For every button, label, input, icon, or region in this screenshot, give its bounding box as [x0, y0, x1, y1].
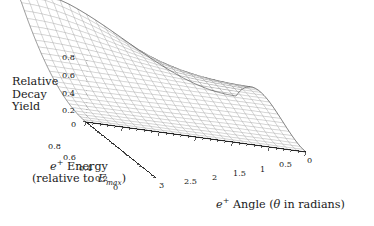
angle-axis-tick-label: 0.5	[279, 159, 292, 169]
angle-axis-tick	[305, 152, 306, 156]
energy-axis-tick-label: 0	[113, 182, 118, 192]
energy-axis-relative-prefix: (relative to	[32, 172, 98, 185]
angle-axis-tick	[85, 122, 86, 126]
energy-axis-tick-label: 0.8	[48, 141, 61, 151]
z-axis-title-line-1: Relative	[12, 76, 58, 89]
angle-axis-tick	[158, 132, 159, 136]
angle-axis-tick-label: 1.5	[233, 168, 246, 178]
angle-axis-tick	[232, 142, 233, 146]
energy-axis-tick-label: 0.6	[63, 152, 76, 162]
angle-axis-tick-label: 0	[307, 155, 312, 165]
z-axis-title-line-3: Yield	[12, 101, 58, 114]
angle-axis-title-rest: in radians)	[280, 198, 345, 211]
energy-axis-title-line-2: (relative to Emax)	[10, 173, 148, 188]
z-axis-tick-label: 0	[71, 119, 76, 129]
angle-axis-tick	[268, 147, 269, 151]
energy-axis-tick-label: 0.2	[95, 173, 108, 183]
angle-axis-tick-label: 1	[260, 164, 265, 174]
z-axis-tick-label: 0.2	[62, 105, 75, 115]
angle-axis-tick-label: 2.5	[184, 176, 197, 186]
angle-axis-particle-symbol: e	[216, 198, 223, 211]
energy-axis-title-suffix: )	[122, 172, 126, 185]
angle-axis-tick	[195, 137, 196, 141]
angle-axis-title: e+ Angle (θ in radians)	[216, 196, 345, 211]
z-axis-title: Relative Decay Yield	[12, 76, 58, 114]
angle-axis-title-mid: Angle (	[229, 198, 273, 211]
angle-axis-tick	[122, 127, 123, 131]
z-axis-tick-label: 0.8	[62, 52, 75, 62]
energy-axis-particle-symbol: e	[50, 160, 57, 173]
energy-axis-tick-label: 0.4	[79, 163, 92, 173]
z-axis-tick-label: 0.4	[62, 88, 75, 98]
angle-axis-tick-label: 2	[212, 172, 217, 182]
decay-yield-surface	[16, 0, 306, 152]
z-axis-tick-label: 0.6	[62, 70, 75, 80]
surface-plot-figure: Relative Decay Yield e+ Energy (relative…	[0, 0, 374, 226]
angle-axis-tick-label: 3	[159, 180, 164, 190]
